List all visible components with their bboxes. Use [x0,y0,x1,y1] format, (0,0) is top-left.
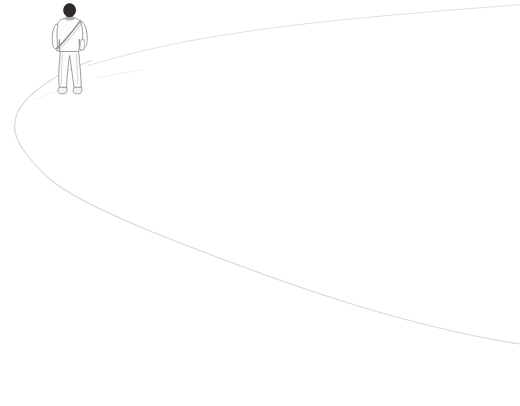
artwork-canvas: A sparse pencil-line illustration of a p… [0,0,520,406]
walking-person [0,0,520,406]
left-arm [52,24,58,48]
figure-group [52,4,87,94]
left-shoe [58,87,67,93]
right-shoe [73,88,82,94]
